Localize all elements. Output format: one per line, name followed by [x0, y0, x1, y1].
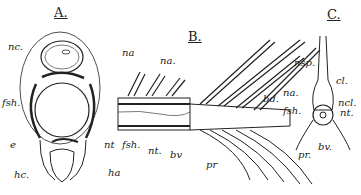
label-a-nt: nt: [104, 140, 114, 150]
panel-c-title: C.: [327, 8, 341, 21]
label-a-nc: nc.: [8, 42, 23, 52]
label-a-na: na: [122, 48, 134, 58]
diagram-drawing: [0, 0, 361, 195]
label-c-na: na.: [283, 88, 299, 98]
label-b-fsh: fsh.: [122, 140, 140, 150]
panel-a-title: A.: [54, 6, 68, 19]
label-c-nt: nt.: [340, 108, 354, 118]
label-b-bv: bv: [170, 150, 182, 160]
label-c-cl: cl.: [336, 76, 348, 86]
label-b-nt: nt.: [148, 146, 162, 156]
label-c-pr: pr.: [298, 150, 311, 160]
label-a-ha: ha: [108, 168, 120, 178]
label-c-nsp: nsp.: [294, 58, 315, 68]
label-a-hc: hc.: [14, 170, 29, 180]
label-c-bv: bv.: [318, 142, 332, 152]
label-a-fsh: fsh.: [2, 98, 20, 108]
panel-a-cross-section: [20, 32, 100, 182]
label-b-na: na.: [160, 56, 176, 66]
label-b-pr: pr: [206, 160, 217, 170]
panel-c-vertebra: [296, 36, 350, 150]
panel-b-title: B.: [188, 30, 202, 43]
label-c-fsh: fsh.: [283, 106, 301, 116]
label-b-bd: bd.: [263, 94, 279, 104]
label-a-e: e: [10, 140, 16, 150]
